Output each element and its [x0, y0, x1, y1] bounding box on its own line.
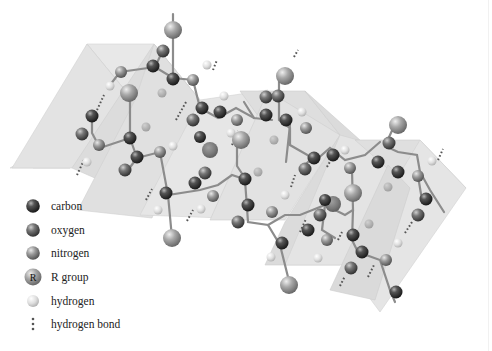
right-edge-divider — [488, 0, 489, 351]
legend-label: oxygen — [51, 224, 85, 236]
legend-item-nitrogen: nitrogen — [22, 243, 89, 263]
nitrogen-atom-icon — [22, 243, 44, 263]
legend-item-oxygen: oxygen — [22, 220, 85, 240]
legend-label: R group — [51, 271, 88, 283]
legend-label: carbon — [51, 200, 82, 212]
hydrogen-bond-icon — [22, 314, 44, 334]
legend-label: nitrogen — [51, 247, 89, 259]
carbon-atom-icon — [22, 196, 44, 216]
oxygen-atom-icon — [22, 220, 44, 240]
hydrogen-atom-icon — [22, 291, 44, 311]
legend-item-hydrogen-bond: hydrogen bond — [22, 314, 120, 334]
legend-item-r-group: R R group — [22, 267, 88, 287]
legend-label: hydrogen bond — [51, 318, 120, 330]
r-group-icon: R — [22, 267, 44, 287]
svg-text:R: R — [30, 272, 37, 283]
legend-item-carbon: carbon — [22, 196, 82, 216]
legend-label: hydrogen — [51, 295, 94, 307]
legend-item-hydrogen: hydrogen — [22, 291, 94, 311]
